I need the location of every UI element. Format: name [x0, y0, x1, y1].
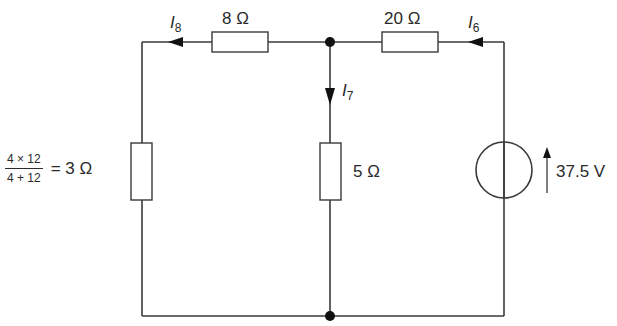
resistor-20-ohm-label: 20 Ω: [384, 10, 420, 27]
resistor-8-ohm: [212, 32, 268, 52]
current-i8-label: I8: [170, 14, 181, 34]
current-i7-arrow-icon: [325, 88, 335, 105]
fraction-denominator: 4 + 12: [7, 169, 41, 185]
fraction-numerator: 4 × 12: [5, 152, 43, 169]
current-i7-label: I7: [342, 82, 353, 102]
junction-node-bottom: [325, 311, 335, 321]
equivalent-resistance-expression: 4 × 12 4 + 12 = 3 Ω: [5, 152, 92, 185]
junction-node-top: [325, 37, 335, 47]
circuit-diagram: [0, 0, 617, 326]
fraction-result: = 3 Ω: [51, 159, 93, 179]
resistor-20-ohm: [382, 32, 438, 52]
resistor-8-ohm-label: 8 Ω: [222, 10, 249, 27]
current-i8-arrow-icon: [168, 37, 183, 47]
source-arrow-icon: [543, 147, 551, 193]
source-voltage-label: 37.5 V: [556, 163, 605, 180]
current-i6-label: I6: [468, 14, 479, 34]
resistor-3-ohm: [131, 143, 152, 200]
resistor-5-ohm-label: 5 Ω: [353, 163, 380, 180]
current-i6-arrow-icon: [468, 37, 483, 47]
resistor-5-ohm: [320, 143, 341, 200]
